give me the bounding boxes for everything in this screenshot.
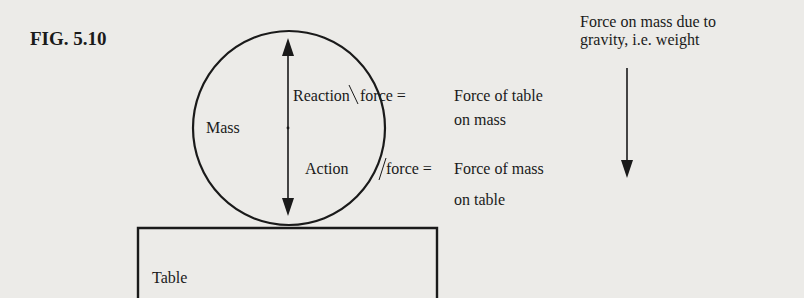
table-outline xyxy=(138,228,437,298)
action-label: Action xyxy=(305,160,349,178)
gravity-label-line2: gravity, i.e. weight xyxy=(580,31,699,49)
arrow-up-icon xyxy=(282,38,294,56)
reaction-label: Reaction xyxy=(293,87,350,105)
table-label: Table xyxy=(152,269,187,287)
arrow-down-icon xyxy=(621,160,633,178)
action-reaction-arrow xyxy=(282,38,294,216)
action-description-line2: on table xyxy=(454,191,505,209)
mass-label: Mass xyxy=(206,119,240,137)
gravity-label-line1: Force on mass due to xyxy=(580,13,716,31)
action-force-label: force = xyxy=(386,160,432,178)
reaction-description-line2: on mass xyxy=(454,111,506,129)
reaction-description-line1: Force of table xyxy=(454,87,543,105)
gravity-arrow xyxy=(621,68,633,178)
arrow-down-icon xyxy=(282,198,294,216)
action-description-line1: Force of mass xyxy=(454,160,544,178)
reaction-force-label: force = xyxy=(360,87,406,105)
reaction-leader xyxy=(349,85,358,104)
figure-label: FIG. 5.10 xyxy=(30,30,107,48)
